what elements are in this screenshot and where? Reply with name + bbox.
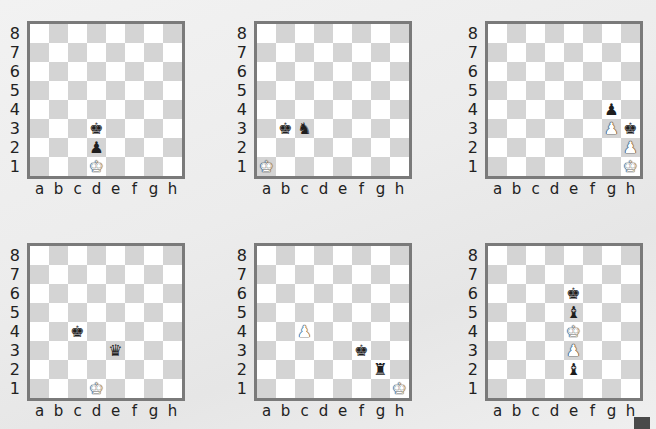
chess-diagram-4: 87654321♚♛♚abcdefgh (0, 222, 190, 422)
square-d7 (87, 265, 106, 284)
square-a5 (257, 303, 276, 322)
square-e4 (106, 100, 125, 119)
rank-label: 5 (229, 303, 247, 322)
square-b8 (276, 24, 295, 43)
square-d6 (314, 284, 333, 303)
square-f1 (125, 157, 144, 176)
rank-label: 5 (229, 81, 247, 100)
square-g6 (371, 284, 390, 303)
square-f2 (352, 138, 371, 157)
square-e5 (333, 303, 352, 322)
square-e6 (106, 284, 125, 303)
file-label: c (295, 180, 314, 198)
square-f8 (583, 246, 602, 265)
square-c5 (526, 303, 545, 322)
square-g4: ♟ (602, 100, 621, 119)
rank-labels: 87654321 (227, 21, 253, 178)
square-d4 (545, 100, 564, 119)
square-b6 (507, 62, 526, 81)
square-b8 (49, 246, 68, 265)
square-e1 (564, 157, 583, 176)
file-label: h (163, 402, 182, 420)
square-h8 (390, 24, 409, 43)
rank-label: 2 (229, 360, 247, 379)
square-f3 (352, 119, 371, 138)
square-b1 (507, 379, 526, 398)
rank-label: 7 (2, 265, 20, 284)
square-e7 (106, 265, 125, 284)
square-h1 (163, 157, 182, 176)
file-label: g (602, 180, 621, 198)
square-c7 (295, 265, 314, 284)
square-f3 (583, 119, 602, 138)
black-king-icon: ♚ (354, 343, 368, 359)
file-label: d (314, 402, 333, 420)
file-label: b (276, 180, 295, 198)
file-label: c (68, 402, 87, 420)
square-a3 (488, 341, 507, 360)
black-knight-icon: ♞ (297, 121, 311, 137)
square-g4 (602, 322, 621, 341)
square-d7 (314, 43, 333, 62)
square-h7 (390, 265, 409, 284)
square-c4 (526, 100, 545, 119)
square-h3 (163, 119, 182, 138)
file-label: g (144, 402, 163, 420)
square-h2 (390, 360, 409, 379)
square-g3 (144, 341, 163, 360)
square-d8 (87, 24, 106, 43)
square-c8 (68, 246, 87, 265)
file-label: e (106, 402, 125, 420)
square-a5 (488, 303, 507, 322)
square-a7 (257, 265, 276, 284)
square-b4 (276, 100, 295, 119)
square-h3 (621, 341, 640, 360)
square-e6: ♚ (564, 284, 583, 303)
black-king-icon: ♚ (70, 324, 84, 340)
square-d7 (87, 43, 106, 62)
square-g8 (144, 24, 163, 43)
square-a5 (257, 81, 276, 100)
file-label: c (68, 180, 87, 198)
square-b5 (49, 81, 68, 100)
black-king-icon: ♚ (278, 121, 292, 137)
square-e7 (333, 265, 352, 284)
square-d5 (87, 303, 106, 322)
file-label: c (295, 402, 314, 420)
square-g6 (602, 62, 621, 81)
rank-label: 7 (229, 43, 247, 62)
square-a6 (488, 62, 507, 81)
square-h6 (163, 62, 182, 81)
square-c4: ♚ (68, 322, 87, 341)
square-c6 (295, 62, 314, 81)
square-a7 (30, 265, 49, 284)
file-label: d (545, 180, 564, 198)
square-d4 (87, 322, 106, 341)
square-a2 (488, 138, 507, 157)
square-d2 (314, 138, 333, 157)
file-label: a (488, 180, 507, 198)
square-c1 (68, 379, 87, 398)
square-a4 (488, 322, 507, 341)
file-label: f (352, 402, 371, 420)
square-e6 (333, 284, 352, 303)
file-label: e (564, 402, 583, 420)
white-pawn-icon: ♟ (623, 140, 637, 156)
square-c3: ♞ (295, 119, 314, 138)
square-h7 (390, 43, 409, 62)
black-rook-icon: ♜ (373, 362, 387, 378)
square-h4 (390, 100, 409, 119)
square-a7 (30, 43, 49, 62)
square-h7 (163, 265, 182, 284)
square-a8 (257, 24, 276, 43)
white-pawn-icon: ♟ (297, 324, 311, 340)
square-d5 (545, 81, 564, 100)
square-f6 (352, 284, 371, 303)
rank-label: 3 (460, 119, 478, 138)
square-d2 (545, 360, 564, 379)
square-e3 (333, 341, 352, 360)
file-labels: abcdefgh (488, 180, 640, 198)
rank-label: 5 (2, 303, 20, 322)
square-f7 (352, 265, 371, 284)
square-g1 (371, 157, 390, 176)
